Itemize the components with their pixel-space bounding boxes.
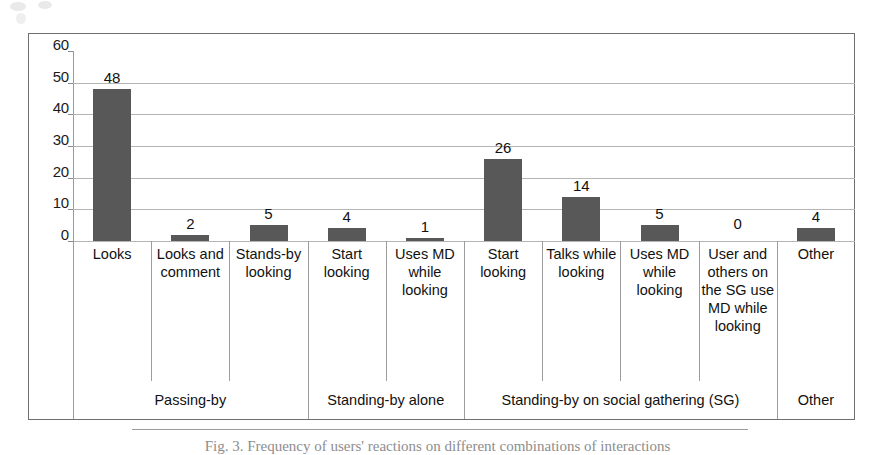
y-axis-tick [68, 209, 73, 210]
bar-value-label: 1 [421, 219, 429, 234]
group-label-cell: Other [777, 381, 855, 419]
scan-artifact [16, 13, 26, 24]
y-axis-tick [68, 83, 73, 84]
bar-slot: 48 [73, 51, 151, 241]
column-divider [386, 241, 387, 381]
bar [328, 228, 366, 241]
group-label: Passing-by [154, 391, 226, 409]
bar-slot: 26 [464, 51, 542, 241]
group-label-cell: Standing-by alone [308, 381, 464, 419]
column-divider [620, 241, 621, 381]
bar-slot: 5 [620, 51, 698, 241]
bar-slot: 0 [699, 51, 777, 241]
category-label: User and others on the SG use MD while l… [699, 241, 777, 335]
bar [93, 89, 131, 241]
category-label: Start looking [308, 241, 386, 281]
y-axis-tick-label: 20 [35, 164, 69, 179]
y-axis-tick [68, 146, 73, 147]
bar-slot: 4 [308, 51, 386, 241]
figure-caption: Fig. 3. Frequency of users' reactions on… [0, 437, 875, 455]
category-label: Looks and comment [151, 241, 229, 281]
bar-slot: 14 [542, 51, 620, 241]
bar [797, 228, 835, 241]
y-axis-tick-label: 50 [35, 69, 69, 84]
column-divider [229, 241, 230, 381]
category-label: Looks [73, 241, 151, 263]
bar-value-label: 4 [812, 209, 820, 224]
group-label-band: Passing-byStanding-by aloneStanding-by o… [73, 381, 855, 419]
group-label: Other [798, 391, 834, 409]
bar-value-label: 0 [734, 216, 742, 231]
bar-value-label: 14 [573, 178, 590, 193]
y-axis-tick-labels: 0102030405060 [35, 44, 69, 234]
category-label: Stands-by looking [229, 241, 307, 281]
category-label: Uses MD while looking [386, 241, 464, 299]
group-label-cell: Passing-by [73, 381, 308, 419]
bar-slot: 4 [777, 51, 855, 241]
scan-artifact [38, 1, 52, 9]
y-axis-tick-label: 10 [35, 195, 69, 210]
y-axis-tick [68, 178, 73, 179]
y-axis-tick-label: 30 [35, 132, 69, 147]
bar-slot: 2 [151, 51, 229, 241]
bar-value-label: 48 [104, 70, 121, 85]
y-axis-tick-label: 60 [35, 37, 69, 52]
column-divider [699, 241, 700, 381]
category-label: Uses MD while looking [620, 241, 698, 299]
column-divider [542, 241, 543, 381]
bar [641, 225, 679, 241]
bar-value-label: 2 [186, 216, 194, 231]
group-label-cell: Standing-by on social gathering (SG) [464, 381, 777, 419]
category-label: Other [777, 241, 855, 263]
group-label: Standing-by on social gathering (SG) [502, 391, 740, 409]
plot-area: 4825412614504 [73, 51, 855, 241]
scan-artifact [10, 2, 26, 11]
bar-value-label: 5 [655, 206, 663, 221]
bar-slot: 1 [386, 51, 464, 241]
bar-value-label: 5 [264, 206, 272, 221]
bar-chart-figure: 0102030405060 4825412614504 LooksLooks a… [28, 33, 855, 420]
y-axis-tick [68, 114, 73, 115]
bar-value-label: 4 [343, 209, 351, 224]
bar [484, 159, 522, 241]
bar-series: 4825412614504 [73, 51, 855, 241]
bar [250, 225, 288, 241]
bar-slot: 5 [229, 51, 307, 241]
bar [562, 197, 600, 241]
figure-bottom-rule [132, 429, 748, 430]
y-axis-tick-label: 40 [35, 100, 69, 115]
bar-value-label: 26 [495, 140, 512, 155]
group-label: Standing-by alone [327, 391, 444, 409]
column-divider [151, 241, 152, 381]
category-label: Talks while looking [542, 241, 620, 281]
category-label: Start looking [464, 241, 542, 281]
y-axis-tick [68, 51, 73, 52]
y-axis-tick-label: 0 [35, 227, 69, 242]
